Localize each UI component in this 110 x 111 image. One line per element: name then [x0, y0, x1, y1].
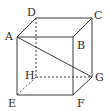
edge-AD	[17, 18, 36, 37]
cube-diagram: ABCDEFGH	[0, 0, 110, 111]
vertex-label-b: B	[77, 39, 85, 52]
vertex-label-f: F	[77, 97, 85, 110]
vertex-label-a: A	[4, 30, 14, 43]
vertex-label-c: C	[94, 9, 102, 22]
vertex-label-h: H	[25, 69, 35, 82]
vertex-label-g: G	[95, 71, 104, 84]
edge-BC	[73, 18, 92, 37]
vertex-label-e: E	[8, 97, 16, 110]
cube-edges	[17, 18, 92, 95]
edge-FG	[73, 77, 92, 95]
cube-figure: ABCDEFGH	[0, 0, 110, 111]
vertex-label-d: D	[27, 6, 36, 19]
